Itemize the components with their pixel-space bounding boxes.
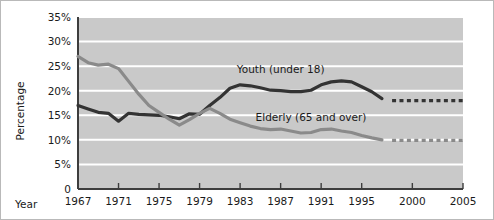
y-tick-label-30: 30% (48, 35, 71, 47)
chart-figure: 05%10%15%20%25%30%35% 196719711975197919… (0, 0, 494, 220)
y-tick-label-25: 25% (48, 60, 71, 72)
x-tick-label-1967: 1967 (65, 195, 92, 207)
y-tick-label-0: 0 (64, 183, 71, 195)
y-axis-title: Percentage (14, 81, 26, 140)
line-chart: 05%10%15%20%25%30%35% 196719711975197919… (1, 1, 494, 220)
x-tick-label-2000: 2000 (399, 195, 426, 207)
y-tick-label-15: 15% (48, 109, 71, 121)
x-axis-title: Year (14, 198, 38, 210)
x-tick-label-1991: 1991 (308, 195, 335, 207)
series-annotation-1: Elderly (65 and over) (256, 111, 367, 123)
plot-background (78, 17, 463, 189)
x-axis-tick-labels: 1967197119751979198319871991199520002005 (65, 195, 477, 207)
y-tick-label-10: 10% (48, 134, 71, 146)
x-tick-label-1975: 1975 (146, 195, 173, 207)
x-tick-label-1987: 1987 (267, 195, 294, 207)
y-tick-label-5: 5% (54, 158, 71, 170)
y-tick-label-35: 35% (48, 11, 71, 23)
y-tick-label-20: 20% (48, 85, 71, 97)
y-axis-tick-labels: 05%10%15%20%25%30%35% (48, 11, 71, 195)
x-tick-label-1995: 1995 (348, 195, 375, 207)
x-tick-label-1983: 1983 (227, 195, 254, 207)
plot-area-rect (78, 17, 463, 189)
x-tick-label-1971: 1971 (105, 195, 132, 207)
series-annotation-0: Youth (under 18) (236, 63, 325, 75)
x-tick-label-2005: 2005 (450, 195, 477, 207)
x-tick-label-1979: 1979 (186, 195, 213, 207)
